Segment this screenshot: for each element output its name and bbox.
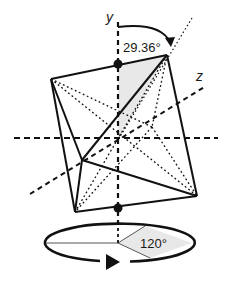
octahedron-rotation-diagram: y z 29.36° 120°	[0, 0, 228, 282]
y-axis-label: y	[105, 9, 114, 25]
z-axis-label: z	[195, 68, 203, 84]
rotation-angle-label: 120°	[140, 236, 167, 251]
rotation-indicator: 120°	[45, 224, 195, 270]
tilt-angle-label: 29.36°	[123, 40, 161, 55]
bottom-vertex-dot	[114, 204, 123, 213]
top-vertex-dot	[114, 60, 123, 69]
rotation-arrow-icon	[106, 254, 120, 270]
tilt-arrowhead	[165, 37, 175, 47]
